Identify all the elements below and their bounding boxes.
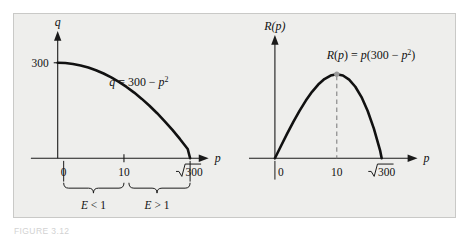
brace-e-greater-than-1 [129, 183, 190, 193]
demand-curve-plot: q p 300 q = 300 − p2 0 10 [14, 14, 235, 217]
figure-panel: q p 300 q = 300 − p2 0 10 [13, 13, 456, 218]
revenue-x-tick-label-0: 0 [278, 166, 284, 178]
revenue-curve-path [274, 74, 381, 158]
revenue-vertex-dot [334, 72, 339, 77]
demand-y-axis-label: q [55, 15, 61, 29]
demand-x-tick-label-10: 10 [118, 166, 130, 178]
revenue-x-axis-arrow [407, 155, 417, 162]
revenue-x-tick-radicand: 300 [377, 166, 394, 178]
revenue-y-axis-label: R(p) [263, 19, 285, 33]
brace-e-less-than-1 [64, 183, 124, 193]
revenue-x-tick-label-sqrt300: 300 [368, 164, 395, 178]
revenue-equation-label: R(p) = p(300 − p2) [325, 48, 415, 62]
demand-x-axis-arrow [199, 155, 209, 162]
demand-curve-svg: q p 300 q = 300 − p2 0 10 [14, 14, 235, 217]
demand-equation-label: q = 300 − p2 [109, 75, 168, 89]
brace-label-e-less-than-1: E < 1 [80, 199, 106, 211]
demand-y-axis-arrow [54, 31, 61, 41]
revenue-curve-svg: R(p) p R(p) = p(300 − p2) 0 10 30 [235, 14, 456, 217]
demand-x-axis-label: p [214, 151, 221, 165]
brace-label-e-greater-than-1: E > 1 [144, 199, 170, 211]
revenue-curve-plot: R(p) p R(p) = p(300 − p2) 0 10 30 [235, 14, 456, 217]
revenue-x-tick-label-10: 10 [331, 166, 343, 178]
revenue-x-axis-label: p [422, 151, 429, 165]
demand-y-tick-label-300: 300 [32, 57, 49, 69]
demand-x-tick-radicand: 300 [186, 166, 203, 178]
revenue-y-axis-arrow [271, 35, 278, 45]
figure-caption: FIGURE 3.12 [14, 226, 214, 238]
figure-root: q p 300 q = 300 − p2 0 10 [0, 0, 470, 242]
